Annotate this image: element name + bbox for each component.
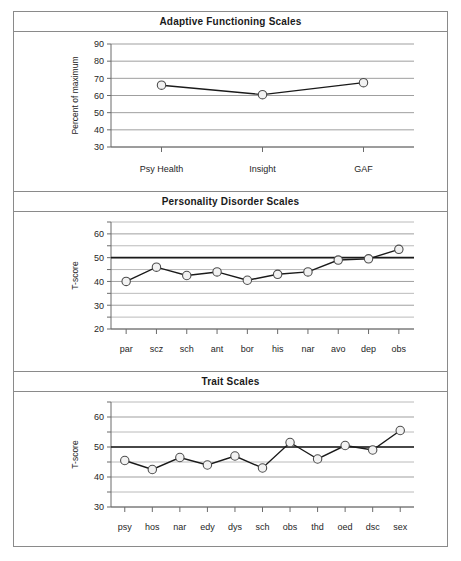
x-tick-label-avo: avo xyxy=(331,344,346,354)
data-point-avo xyxy=(334,256,342,264)
data-point-his xyxy=(273,270,281,278)
data-point-nar xyxy=(176,453,184,461)
x-tick-label-psy: psy xyxy=(118,522,133,532)
x-tick-label-nar: nar xyxy=(173,522,186,532)
panel-adaptive-functioning: Adaptive Functioning Scales 304050607080… xyxy=(14,12,447,191)
plot-trait-scales: 30405060T-scorepsyhosnaredydysschobsthdo… xyxy=(14,392,447,546)
data-point-scz xyxy=(152,263,160,271)
data-point-hos xyxy=(148,465,156,473)
data-point-dep xyxy=(364,255,372,263)
x-tick-label-sch: sch xyxy=(180,344,194,354)
x-tick-label-dys: dys xyxy=(228,522,243,532)
plot-adaptive-functioning: 30405060708090Percent of maximumPsy Heal… xyxy=(14,32,447,191)
x-tick-label-sch: sch xyxy=(255,522,269,532)
data-point-oed xyxy=(341,441,349,449)
y-axis-label: Percent of maximum xyxy=(70,57,80,135)
data-point-nar xyxy=(304,268,312,276)
y-tick-label: 80 xyxy=(94,56,104,66)
y-axis-label: T-score xyxy=(70,261,80,290)
y-tick-label: 50 xyxy=(94,108,104,118)
y-tick-label: 40 xyxy=(94,125,104,135)
y-tick-label: 60 xyxy=(94,412,104,422)
plot-personality-disorder: 2030405060T-scoreparsczschantborhisnarav… xyxy=(14,212,447,371)
data-point-obs xyxy=(286,438,294,446)
y-tick-label: 70 xyxy=(94,74,104,84)
data-point-dsc xyxy=(368,446,376,454)
x-tick-label-dsc: dsc xyxy=(366,522,381,532)
y-tick-label: 50 xyxy=(94,442,104,452)
y-tick-label: 30 xyxy=(94,142,104,152)
x-tick-label-thd: thd xyxy=(311,522,324,532)
x-tick-label-bor: bor xyxy=(241,344,254,354)
data-point-obs xyxy=(395,245,403,253)
y-tick-label: 20 xyxy=(94,324,104,334)
data-point-bor xyxy=(243,276,251,284)
x-tick-label-par: par xyxy=(120,344,133,354)
x-tick-label-scz: scz xyxy=(150,344,164,354)
x-tick-label-GAF: GAF xyxy=(354,164,373,174)
panel-trait-scales: Trait Scales 30405060T-scorepsyhosnaredy… xyxy=(14,372,447,546)
figure-container: Adaptive Functioning Scales 304050607080… xyxy=(13,11,448,547)
panel-title-personality-disorder: Personality Disorder Scales xyxy=(14,192,447,212)
panel-personality-disorder: Personality Disorder Scales 2030405060T-… xyxy=(14,192,447,371)
data-point-par xyxy=(122,277,130,285)
y-tick-label: 60 xyxy=(94,229,104,239)
x-tick-label-hos: hos xyxy=(145,522,160,532)
y-tick-label: 40 xyxy=(94,472,104,482)
x-tick-label-edy: edy xyxy=(200,522,215,532)
y-tick-label: 40 xyxy=(94,277,104,287)
data-point-Insight xyxy=(258,90,266,98)
y-tick-label: 90 xyxy=(94,39,104,49)
y-tick-label: 50 xyxy=(94,253,104,263)
data-point-sch xyxy=(258,464,266,472)
y-tick-label: 30 xyxy=(94,502,104,512)
x-tick-label-sex: sex xyxy=(393,522,408,532)
x-tick-label-obs: obs xyxy=(283,522,298,532)
x-tick-label-ant: ant xyxy=(211,344,224,354)
data-point-Psy Health xyxy=(157,81,165,89)
data-point-ant xyxy=(213,268,221,276)
data-point-dys xyxy=(231,452,239,460)
y-tick-label: 60 xyxy=(94,91,104,101)
data-point-thd xyxy=(313,455,321,463)
data-point-edy xyxy=(203,461,211,469)
panel-title-trait-scales: Trait Scales xyxy=(14,372,447,392)
x-tick-label-Psy Health: Psy Health xyxy=(140,164,184,174)
data-point-psy xyxy=(121,456,129,464)
series-line xyxy=(126,249,399,281)
x-tick-label-his: his xyxy=(272,344,284,354)
panel-title-adaptive-functioning: Adaptive Functioning Scales xyxy=(14,12,447,32)
x-tick-label-obs: obs xyxy=(392,344,407,354)
data-point-GAF xyxy=(359,78,367,86)
x-tick-label-Insight: Insight xyxy=(249,164,276,174)
x-tick-label-oed: oed xyxy=(338,522,353,532)
x-tick-label-dep: dep xyxy=(361,344,376,354)
y-tick-label: 30 xyxy=(94,301,104,311)
y-axis-label: T-score xyxy=(70,440,80,469)
data-point-sch xyxy=(183,271,191,279)
x-tick-label-nar: nar xyxy=(301,344,314,354)
data-point-sex xyxy=(396,426,404,434)
